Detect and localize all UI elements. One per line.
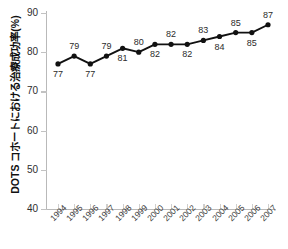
data-point-marker xyxy=(55,61,60,66)
data-point-label: 81 xyxy=(112,53,134,63)
data-point-label: 77 xyxy=(47,69,69,79)
data-point-label: 79 xyxy=(63,41,85,51)
line-chart: DOTS コホートにおける治療成功率(%) 908070605040 77797… xyxy=(0,0,288,249)
data-point-label: 82 xyxy=(160,29,182,39)
data-point-marker xyxy=(104,54,109,59)
data-point-label: 82 xyxy=(176,49,198,59)
data-point-marker xyxy=(265,22,270,27)
data-point-marker xyxy=(201,38,206,43)
data-point-marker xyxy=(120,46,125,51)
data-point-marker xyxy=(168,42,173,47)
data-point-marker xyxy=(152,42,157,47)
data-point-marker xyxy=(217,34,222,39)
data-point-marker xyxy=(249,30,254,35)
data-point-label: 82 xyxy=(144,49,166,59)
data-point-marker xyxy=(233,30,238,35)
data-point-label: 85 xyxy=(241,38,263,48)
data-point-marker xyxy=(136,50,141,55)
data-point-label: 79 xyxy=(95,41,117,51)
data-point-label: 77 xyxy=(79,69,101,79)
data-point-label: 87 xyxy=(257,10,279,20)
data-point-label: 84 xyxy=(209,42,231,52)
data-point-label: 83 xyxy=(192,25,214,35)
data-point-marker xyxy=(88,61,93,66)
data-point-marker xyxy=(72,54,77,59)
data-point-marker xyxy=(185,42,190,47)
data-point-label: 80 xyxy=(128,37,150,47)
data-point-label: 85 xyxy=(225,18,247,28)
